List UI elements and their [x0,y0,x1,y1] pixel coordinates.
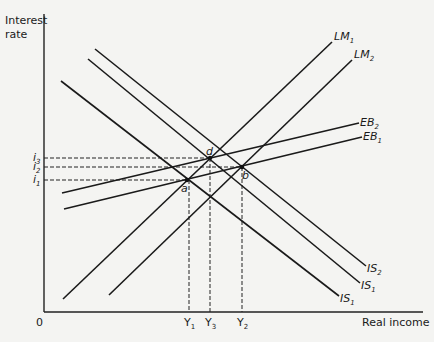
label-is1-upper: IS1 [361,279,376,294]
tick-i1: i1 [33,173,41,188]
curve-lm2 [109,60,352,295]
point-label-d: d [206,145,214,158]
is-lm-eb-diagram: Interest rate Real income 0 LM1LM2EB2EB1… [0,0,434,342]
tick-labels: i3i2i1Y1Y3Y2 [33,151,248,331]
y-axis-title-line2: rate [5,28,28,41]
origin-label: 0 [36,316,43,329]
label-is2: IS2 [367,262,382,277]
curves: LM1LM2EB2EB1IS2IS1IS1 [61,30,382,307]
curve-lm1 [63,42,332,299]
point-label-a: a [181,182,188,195]
label-eb2: EB2 [360,116,380,131]
label-eb1: EB1 [363,130,382,145]
label-lm2: LM2 [354,48,375,63]
tick-y1: Y1 [183,316,195,331]
point-label-b: b [242,169,249,182]
label-lm1: LM1 [334,30,354,45]
tick-y2: Y2 [236,316,248,331]
x-axis-title: Real income [362,316,430,329]
tick-y3: Y3 [204,316,216,331]
label-is1-lower: IS1 [340,292,355,307]
y-axis-title-line1: Interest [5,14,48,27]
